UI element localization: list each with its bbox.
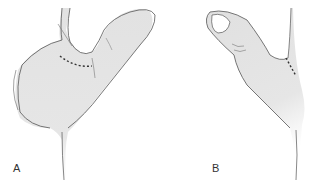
panel-b: B	[162, 0, 324, 185]
hand-illustration-a	[0, 0, 162, 185]
hand-illustration-b	[162, 0, 324, 185]
panel-label-b: B	[212, 162, 219, 174]
panel-a: A	[0, 0, 162, 185]
panel-label-a: A	[13, 162, 20, 174]
